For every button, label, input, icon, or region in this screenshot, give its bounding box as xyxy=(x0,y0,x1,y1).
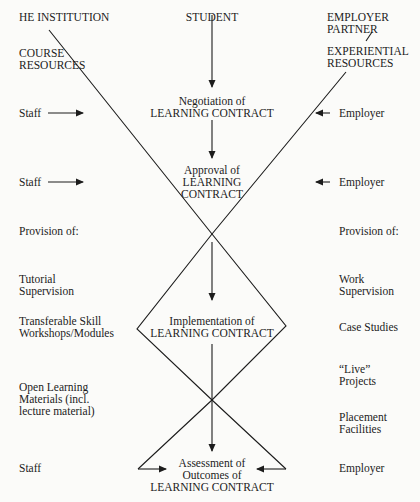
right-employer-1: Employer xyxy=(339,107,384,120)
right-employer-2: Employer xyxy=(339,176,384,189)
header-he-institution: HE INSTITUTION xyxy=(19,11,109,24)
right-work-2: Supervision xyxy=(339,285,394,298)
right-case-studies: Case Studies xyxy=(339,321,398,334)
header-student: STUDENT xyxy=(186,11,238,24)
course-resources-2: RESOURCES xyxy=(19,59,85,72)
left-open-3: lecture material) xyxy=(19,405,95,418)
left-staff-3: Staff xyxy=(19,462,41,475)
header-partner: PARTNER xyxy=(327,23,378,36)
right-employer-3: Employer xyxy=(339,462,384,475)
right-placement-2: Facilities xyxy=(339,423,381,436)
left-tutorial-2: Supervision xyxy=(19,285,74,298)
left-staff-1: Staff xyxy=(19,107,41,120)
approval-label-3: CONTRACT xyxy=(181,188,243,201)
experiential-resources-2: RESOURCES xyxy=(327,57,393,70)
left-provision: Provision of: xyxy=(19,225,79,238)
assessment-label-3: LEARNING CONTRACT xyxy=(150,481,274,494)
implementation-label-2: LEARNING CONTRACT xyxy=(150,327,274,340)
left-staff-2: Staff xyxy=(19,176,41,189)
right-provision: Provision of: xyxy=(339,225,399,238)
right-live-2: Projects xyxy=(339,375,376,388)
left-transferable-2: Workshops/Modules xyxy=(19,327,114,340)
negotiation-label-2: LEARNING CONTRACT xyxy=(150,107,274,120)
